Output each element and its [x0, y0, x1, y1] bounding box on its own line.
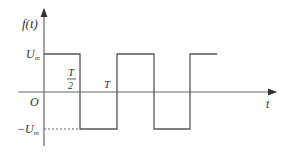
upper-level-label: Um: [26, 47, 40, 62]
half-period-numerator: T: [68, 66, 75, 78]
x-axis-label: t: [266, 97, 270, 111]
half-period-denominator: 2: [68, 80, 73, 91]
origin-label: O: [30, 95, 39, 109]
period-label: T: [104, 78, 111, 90]
square-wave-diagram: f(t) t O Um −Um T 2 T: [0, 0, 287, 153]
lower-level-label: −Um: [17, 122, 39, 137]
y-axis-label: f(t): [22, 16, 38, 31]
